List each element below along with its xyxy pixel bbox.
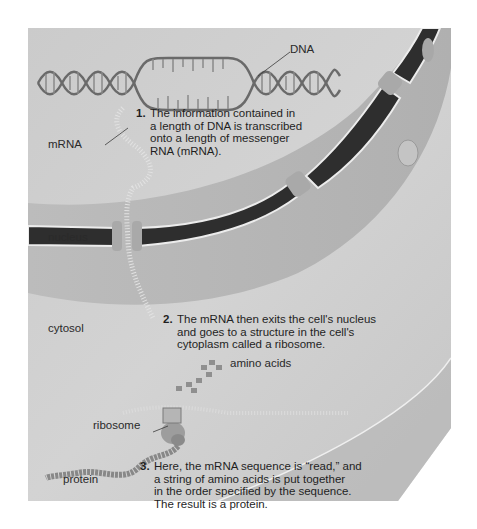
step-2-caption: 2. The mRNA then exits the cell's nucleu… [177,313,376,351]
step-1-line: onto a length of messenger [150,132,302,145]
label-dna: DNA [290,43,314,56]
step-3-line: The result is a protein. [154,498,362,511]
step-2-line: cytoplasm called a ribosome. [177,338,376,351]
figure-panel: DNA mRNA nucleus cytosol amino acids rib… [28,28,451,501]
step-1-line: The information contained in [150,107,302,120]
step-2-number: 2. [163,313,173,326]
label-protein: protein [63,473,98,486]
label-cytosol: cytosol [48,322,84,335]
step-3-line: in the order specified by the sequence. [154,485,362,498]
label-ribosome: ribosome [93,419,140,432]
figure-illustration [28,28,451,501]
step-3-caption: 3. Here, the mRNA sequence is “read,” an… [154,460,362,510]
label-nucleus: nucleus [48,231,88,244]
step-3-line: a string of amino acids is put together [154,473,362,486]
label-mrna: mRNA [48,138,82,151]
step-2-line: and goes to a structure in the cell's [177,326,376,339]
step-1-line: RNA (mRNA). [150,145,302,158]
step-3-line: Here, the mRNA sequence is “read,” and [154,460,362,473]
step-1-caption: 1. The information contained in a length… [150,107,302,157]
step-3-number: 3. [140,460,150,473]
step-1-number: 1. [136,107,146,120]
step-2-line: The mRNA then exits the cell's nucleus [177,313,376,326]
label-amino-acids: amino acids [230,357,291,370]
step-1-line: a length of DNA is transcribed [150,120,302,133]
